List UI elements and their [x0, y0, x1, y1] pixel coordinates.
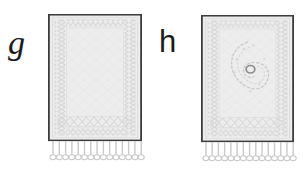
- rug-body-g: [49, 15, 141, 141]
- panel-label-h: h: [159, 26, 176, 57]
- figure-panel-h: h: [151, 0, 303, 191]
- rug-fringe-h: [203, 142, 296, 161]
- rug-border-left-g: [55, 19, 66, 136]
- panel-label-g: g: [8, 26, 25, 60]
- rug-border-bottom-g: [66, 128, 125, 136]
- rug-border-right-g: [125, 19, 136, 136]
- rug-border-top-h: [218, 20, 276, 28]
- medallion-center-dot-h: [249, 68, 252, 70]
- rug-body-h: [202, 16, 293, 142]
- rug-svg-h: [201, 15, 294, 165]
- rug-border-bottom-h: [218, 129, 276, 137]
- rug-border-left-h: [207, 20, 218, 137]
- rug-drawing-h: [201, 15, 294, 165]
- figure-panel-g: g: [0, 0, 151, 191]
- rug-svg-g: [48, 14, 142, 164]
- rug-border-top-g: [66, 19, 125, 27]
- rug-fringe-g: [50, 141, 144, 160]
- rug-border-right-h: [277, 20, 288, 137]
- rug-drawing-g: [48, 14, 142, 164]
